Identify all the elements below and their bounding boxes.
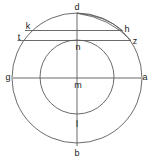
point-label-g: g: [5, 73, 10, 82]
point-label-n: n: [75, 43, 80, 52]
arc-d-to-z: [77, 13, 131, 40]
point-label-m: m: [74, 81, 82, 90]
point-label-z: z: [133, 37, 138, 46]
point-label-b: b: [74, 149, 79, 158]
circle-diagram: d b g a m n l k h t z: [0, 0, 152, 161]
point-label-l: l: [76, 120, 78, 129]
point-label-h: h: [124, 25, 129, 34]
point-label-k: k: [26, 22, 31, 31]
point-label-d: d: [74, 3, 79, 12]
point-label-a: a: [142, 73, 147, 82]
point-label-t: t: [18, 33, 21, 42]
